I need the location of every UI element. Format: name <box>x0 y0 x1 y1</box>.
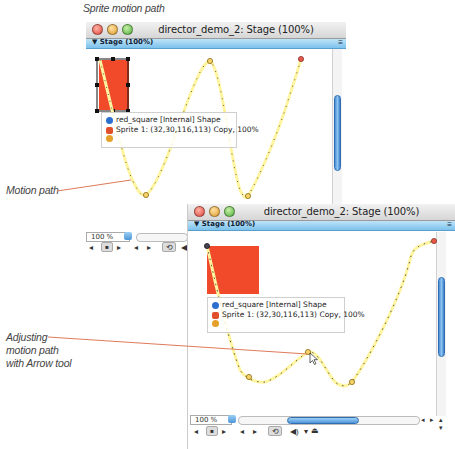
keyframe[interactable] <box>246 374 251 379</box>
ink-icon <box>212 320 219 327</box>
keyframe[interactable] <box>349 379 354 384</box>
volume-dropdown[interactable]: ▾ <box>304 427 308 436</box>
step-forward-button-2[interactable]: ▸ <box>253 427 257 436</box>
info-icon <box>212 302 219 309</box>
rewind-button-2[interactable]: ◂ <box>194 427 198 436</box>
scroll-right-button[interactable]: ▸ <box>430 415 434 424</box>
dtv-icon[interactable]: ⏏ <box>311 426 319 435</box>
loop-button-2[interactable]: ⟲ <box>268 426 282 436</box>
zoom-field-2[interactable]: 100 % <box>190 415 232 425</box>
sprite-info: Sprite 1: (32,30,116,113) Copy, 100% <box>222 310 365 320</box>
sprite-icon <box>212 312 219 319</box>
sprite-name: red_square [Internal] Shape <box>222 300 327 310</box>
scroll-left-button[interactable]: ◂ <box>421 415 425 424</box>
horizontal-scrollbar-2[interactable] <box>238 416 420 425</box>
red-square-sprite[interactable] <box>207 246 259 294</box>
start-keyframe[interactable] <box>204 243 209 248</box>
hscroll-thumb[interactable] <box>287 417 359 424</box>
callout-line-adjusting <box>48 337 307 354</box>
play-button-2[interactable]: ▸ <box>222 427 226 436</box>
end-keyframe[interactable] <box>431 238 436 243</box>
step-back-button-2[interactable]: ◂ <box>240 427 244 436</box>
zoom-stepper-2[interactable] <box>228 415 236 423</box>
stop-button-2[interactable]: ■ <box>206 426 218 436</box>
sprite-overlay-2: red_square [Internal] Shape Sprite 1: (3… <box>207 297 345 333</box>
volume-button-2[interactable]: ◀) <box>290 427 299 436</box>
